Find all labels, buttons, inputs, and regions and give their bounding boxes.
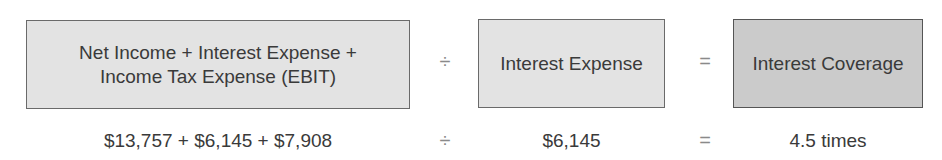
interest-coverage-label: Interest Coverage [752, 52, 903, 76]
interest-coverage-box: Interest Coverage [733, 19, 923, 108]
equals-operator-top: = [690, 50, 720, 73]
interest-coverage-value: 4.5 times [733, 130, 923, 152]
interest-expense-box: Interest Expense [478, 19, 665, 108]
divide-operator-top: ÷ [430, 50, 460, 73]
interest-expense-value: $6,145 [478, 130, 665, 152]
equals-operator-bottom: = [690, 129, 720, 152]
ebit-label-line1: Net Income + Interest Expense + [79, 41, 357, 65]
ebit-value: $13,757 + $6,145 + $7,908 [26, 130, 410, 152]
ebit-box: Net Income + Interest Expense + Income T… [26, 20, 410, 109]
interest-expense-label: Interest Expense [500, 52, 643, 76]
ebit-label-line2: Income Tax Expense (EBIT) [79, 65, 357, 89]
divide-operator-bottom: ÷ [430, 129, 460, 152]
